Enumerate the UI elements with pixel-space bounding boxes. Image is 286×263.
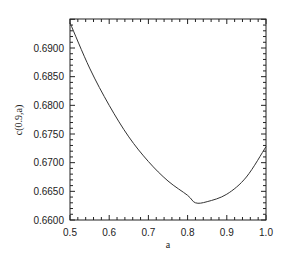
y-tick-label: 0.6700 <box>33 157 64 168</box>
y-tick-label: 0.6850 <box>33 71 64 82</box>
plot-frame <box>70 19 266 220</box>
y-tick-label: 0.6900 <box>33 43 64 54</box>
y-tick-label: 0.6800 <box>33 100 64 111</box>
x-tick-label: 0.7 <box>141 227 155 238</box>
y-tick-label: 0.6750 <box>33 129 64 140</box>
x-tick-label: 0.6 <box>102 227 116 238</box>
axis-ticks <box>70 19 266 220</box>
x-axis-label: a <box>166 239 171 250</box>
x-tick-label: 0.9 <box>220 227 234 238</box>
chart: 0.50.60.70.80.91.0 0.66000.66500.67000.6… <box>0 0 286 263</box>
y-tick-label: 0.6650 <box>33 186 64 197</box>
x-tick-label: 0.8 <box>181 227 195 238</box>
x-tick-label: 1.0 <box>259 227 273 238</box>
data-line <box>70 23 266 204</box>
y-tick-label: 0.6600 <box>33 215 64 226</box>
y-axis-label: c(0.9,a) <box>13 105 25 136</box>
x-tick-label: 0.5 <box>63 227 77 238</box>
x-tick-labels: 0.50.60.70.80.91.0 <box>63 227 273 238</box>
y-tick-labels: 0.66000.66500.67000.67500.68000.68500.69… <box>33 43 64 226</box>
